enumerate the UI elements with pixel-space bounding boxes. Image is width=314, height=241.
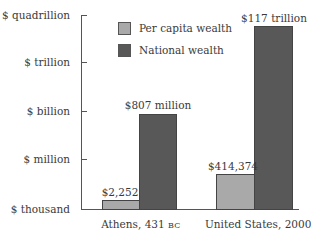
bar-us-per-capita [216,174,255,210]
legend-swatch-per-capita [118,22,131,35]
y-tick-million [81,159,87,160]
value-label-athens-per-capita: $2,252 [95,186,145,198]
y-tick-label-million: $ million [0,153,70,165]
y-tick-billion [81,111,87,112]
y-tick-label-quadrillion: $ quadrillion [0,9,70,21]
legend-label-per-capita: Per capita wealth [139,22,232,35]
legend-label-national: National wealth [139,44,224,57]
category-label-us: United States, 2000 [205,218,309,230]
legend-swatch-national [118,44,131,57]
y-tick-quadrillion [81,15,87,16]
category-label-athens-era: BC [168,221,181,230]
bar-us-national [254,26,293,210]
y-tick-label-billion: $ billion [0,105,70,117]
y-tick-label-trillion: $ trillion [0,56,70,68]
bar-athens-per-capita [102,200,140,210]
category-label-athens-text: Athens, 431 [101,218,168,230]
y-axis-line [81,15,82,210]
y-tick-trillion [81,62,87,63]
value-label-us-national: $117 trillion [240,12,308,24]
y-tick-label-thousand: $ thousand [0,203,70,215]
value-label-athens-national: $807 million [123,99,193,111]
category-label-athens: Athens, 431 BC [94,218,188,232]
value-label-us-per-capita: $414,374 [203,160,263,172]
